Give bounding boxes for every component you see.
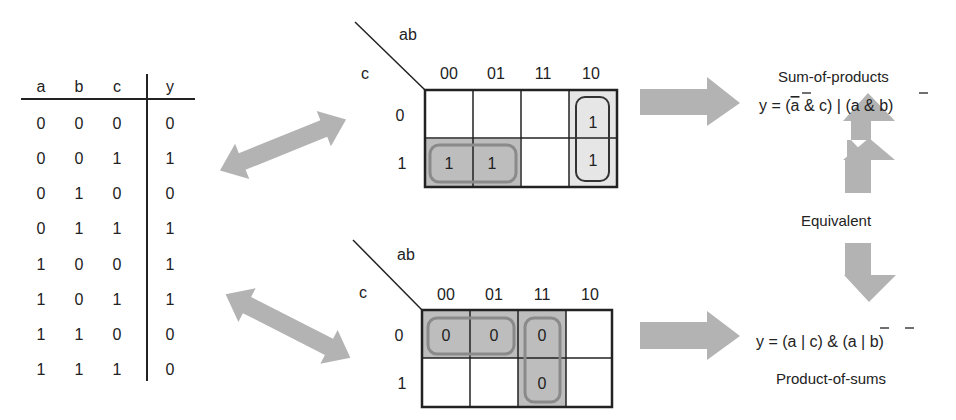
cell-c: 0 [113, 115, 122, 132]
kmap-col-label: 10 [582, 65, 600, 82]
table-row: 0 1 0 0 [37, 185, 175, 202]
kmap-col-label: 11 [535, 65, 552, 82]
cell-a: 0 [37, 185, 46, 202]
kmap-row-label: 0 [395, 327, 404, 344]
boolean-equivalence-diagram: a b c y 0 0 0 0 0 0 1 1 0 1 0 0 0 1 1 1 [0, 0, 956, 420]
cell-y: 1 [166, 220, 175, 237]
truth-table-header-y: y [166, 78, 174, 95]
cell-a: 0 [37, 150, 46, 167]
truth-table-header-b: b [75, 78, 84, 95]
cell-y: 1 [166, 150, 175, 167]
equivalent-label: Equivalent [801, 212, 872, 229]
kmap-cell: 1 [488, 155, 497, 172]
sop-title: Sum-of-products [778, 68, 889, 85]
truth-table-header-a: a [37, 78, 46, 95]
cell-a: 1 [37, 291, 46, 308]
kmap-cell: 0 [442, 327, 451, 344]
pos-equation: y = (a | c) & (a | b) [756, 333, 884, 350]
kmap-row-label: 1 [398, 155, 407, 172]
truth-table-header-c: c [113, 78, 121, 95]
cell-c: 1 [113, 291, 122, 308]
kmap-cell: 1 [445, 155, 454, 172]
cell-y: 0 [166, 185, 175, 202]
kmap-col-label: 01 [487, 65, 505, 82]
kmap-cell: 0 [490, 327, 499, 344]
kmap-col-label: 00 [440, 65, 458, 82]
cell-b: 0 [75, 150, 84, 167]
cell-a: 0 [37, 115, 46, 132]
cell-y: 1 [166, 291, 175, 308]
kmap-row-var: c [361, 65, 369, 82]
table-row: 1 1 0 0 [37, 326, 175, 343]
cell-y: 1 [166, 256, 175, 273]
cell-b: 0 [75, 291, 84, 308]
kmap-col-label: 11 [534, 286, 551, 303]
cell-b: 1 [75, 185, 84, 202]
kmap-sum-of-products: ab c 00 01 11 10 0 1 1 1 1 1 [355, 22, 617, 187]
kmap-col-var: ab [399, 26, 417, 43]
table-row: 1 0 1 1 [37, 291, 175, 308]
kmap-col-var: ab [397, 246, 415, 263]
cell-y: 0 [166, 115, 175, 132]
cell-b: 0 [75, 115, 84, 132]
table-row: 1 0 0 1 [37, 256, 175, 273]
kmap-cell: 0 [538, 375, 547, 392]
cell-y: 0 [166, 361, 175, 378]
kmap-row-label: 0 [396, 107, 405, 124]
pos-title: Product-of-sums [776, 370, 886, 387]
arrow-right-icon [640, 77, 740, 126]
cell-a: 1 [37, 326, 46, 343]
cell-a: 0 [37, 220, 46, 237]
table-row: 0 0 1 1 [37, 150, 175, 167]
cell-b: 1 [75, 220, 84, 237]
cell-c: 1 [113, 220, 122, 237]
kmap-cell: 1 [589, 152, 598, 169]
arrow-down-icon [844, 243, 896, 302]
kmap-row-label: 1 [398, 375, 407, 392]
double-arrow-icon [217, 277, 359, 374]
cell-c: 0 [113, 256, 122, 273]
arrow-right-icon [640, 311, 740, 360]
cell-b: 1 [75, 326, 84, 343]
kmap-cell: 0 [538, 327, 547, 344]
truth-table: a b c y 0 0 0 0 0 0 1 1 0 1 0 0 0 1 1 1 [21, 74, 195, 381]
table-row: 0 1 1 1 [37, 220, 175, 237]
table-row: 0 0 0 0 [37, 115, 175, 132]
kmap-col-label: 01 [485, 286, 503, 303]
cell-c: 1 [113, 361, 122, 378]
cell-a: 1 [37, 256, 46, 273]
cell-b: 1 [75, 361, 84, 378]
cell-c: 0 [113, 326, 122, 343]
kmap-col-label: 00 [437, 286, 455, 303]
table-row: 1 1 1 0 [37, 361, 175, 378]
cell-y: 0 [166, 326, 175, 343]
kmap-row-var: c [359, 284, 367, 301]
cell-a: 1 [37, 361, 46, 378]
sop-equation: y = (a & c) | (a & b) [759, 97, 893, 114]
double-arrow-icon [213, 102, 353, 188]
cell-c: 0 [113, 185, 122, 202]
cell-c: 1 [113, 150, 122, 167]
kmap-cell: 1 [589, 114, 598, 131]
kmap-col-label: 10 [581, 286, 599, 303]
cell-b: 0 [75, 256, 84, 273]
kmap-product-of-sums: ab c 00 01 11 10 0 1 0 0 0 0 [353, 240, 612, 407]
